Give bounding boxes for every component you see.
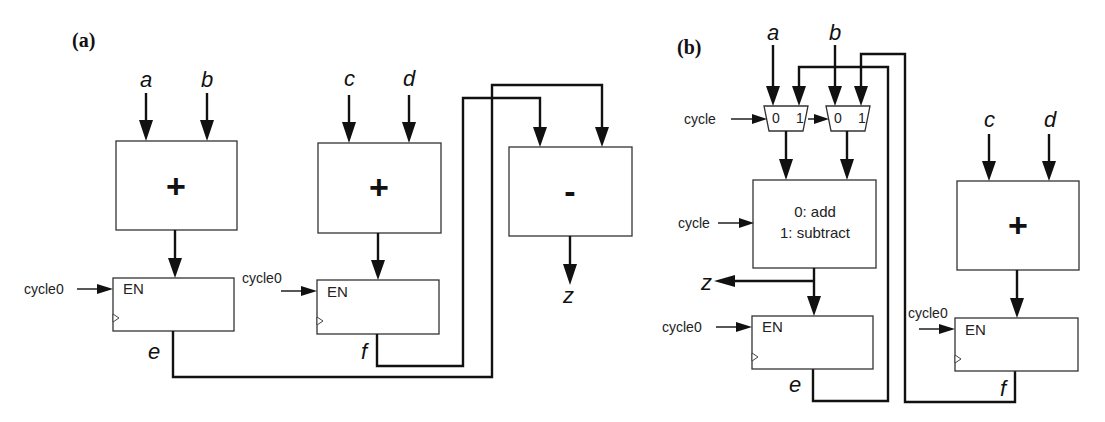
register-f-en-label: EN [965,321,986,338]
arrow-down-icon [779,159,793,180]
arrow-down-icon [854,86,868,106]
panel-a: (a) a b + EN cycle0 e c d + [24,29,632,377]
register-f-en-label: EN [327,283,348,300]
panel-a-label: (a) [72,29,95,52]
register-f-output-label: f [1000,376,1009,401]
register-e-en-label: EN [762,318,783,335]
input-d-label: d [403,66,416,91]
input-a-label: a [767,20,779,45]
arrow-right-icon [814,114,829,124]
input-c-label: c [344,66,355,91]
output-z-label: z [700,270,712,295]
input-b-label: b [201,67,213,92]
alu-mode-subtract: 1: subtract [780,224,851,241]
arrow-down-icon [139,120,153,141]
register-f-enable-signal: cycle0 [908,305,948,321]
mux-2-in1: 1 [858,110,866,126]
mux-2-in0: 0 [834,110,842,126]
arrow-right-icon [752,114,767,124]
arrow-down-icon [533,127,547,147]
input-d-label: d [1044,107,1057,132]
register-e-enable-signal: cycle0 [662,319,702,335]
arrow-down-icon [1010,298,1024,318]
adder-1-op: + [166,167,186,205]
adder-op: + [1008,206,1028,244]
output-z-label: z [562,283,574,308]
register-e-output-label: e [789,372,801,397]
register-f-enable-signal: cycle0 [242,270,282,286]
arrow-down-icon [342,122,356,143]
arrow-right-icon [939,324,955,334]
arrow-down-icon [402,122,416,143]
arrow-down-icon [807,296,821,316]
mux-select-signal: cycle [684,111,716,127]
mux-1-in1: 1 [796,110,804,126]
subtractor-op: - [564,172,575,210]
arrow-down-icon [766,86,780,106]
register-e-enable-signal: cycle0 [24,281,64,297]
arrow-down-icon [371,260,385,280]
arrow-down-icon [1042,161,1056,181]
register-e-output-label: e [148,339,160,364]
mux-1-in0: 0 [772,110,780,126]
datapath-diagram: (a) a b + EN cycle0 e c d + [0,0,1105,422]
arrow-down-icon [200,120,214,141]
arrow-down-icon [840,159,854,180]
alu-mode-add: 0: add [794,203,836,220]
arrow-left-icon [714,275,735,287]
panel-b-label: (b) [677,36,701,59]
arrow-down-icon [168,258,182,278]
arrow-down-icon [828,86,842,106]
adder-2-op: + [369,168,389,206]
input-a-label: a [140,67,152,92]
arrow-right-icon [301,286,317,296]
arrow-down-icon [792,86,806,106]
arrow-down-icon [563,264,577,285]
register-e-en-label: EN [123,280,144,297]
input-c-label: c [984,107,995,132]
arrow-right-icon [736,322,752,332]
arrow-right-icon [97,284,113,294]
register-f-output-label: f [361,339,370,364]
arrow-down-icon [595,127,609,147]
panel-b: (b) a b 0 1 0 1 cycle 0: add [662,20,1079,402]
input-b-label: b [829,20,841,45]
arrow-down-icon [982,161,996,181]
arrow-right-icon [739,218,754,228]
alu-control-signal: cycle [678,215,710,231]
